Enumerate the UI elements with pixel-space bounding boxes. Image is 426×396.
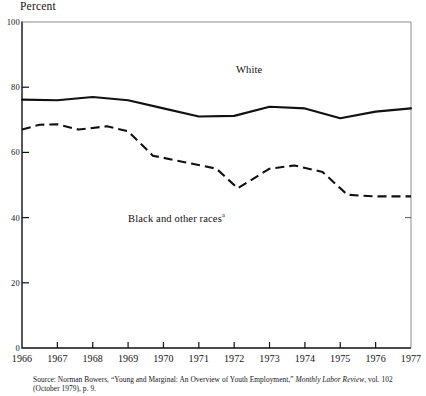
source-note-prefix: Source: Norman Bowers, “Young and Margin… (33, 375, 295, 384)
source-note-publication: Monthly Labor Review (295, 375, 364, 384)
series-line-black-and-other-races (22, 124, 411, 196)
source-note: Source: Norman Bowers, “Young and Margin… (33, 375, 415, 394)
series-label-footnote-marker: a (222, 211, 225, 218)
series-label-white: White (236, 64, 262, 75)
y-tick-label: 0 (0, 343, 20, 353)
y-tick-label: 80 (0, 82, 20, 92)
series-line-white (22, 97, 411, 118)
y-tick-label: 100 (0, 17, 20, 27)
y-tick-label: 60 (0, 147, 20, 157)
y-tick-label: 40 (0, 213, 20, 223)
axis-spines (22, 22, 411, 349)
series-label-black-and-other-races: Black and other racesa (128, 211, 225, 224)
y-tick-label: 20 (0, 278, 20, 288)
x-tick-label: 1977 (390, 353, 426, 364)
